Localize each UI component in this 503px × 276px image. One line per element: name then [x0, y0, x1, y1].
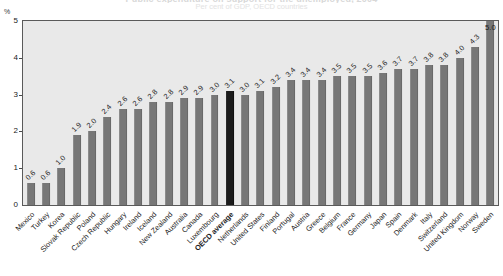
plot-area: 0.60.61.01.92.02.42.62.62.82.82.92.93.03… — [22, 20, 499, 206]
bar-slot[interactable]: 3.7 — [391, 21, 406, 205]
bar-slot[interactable]: 1.9 — [69, 21, 84, 205]
y-axis-tick-mark — [19, 168, 22, 169]
bar[interactable] — [134, 109, 142, 205]
bar[interactable] — [440, 65, 448, 205]
bar-slot[interactable]: 3.0 — [207, 21, 222, 205]
bar-value-label: 3.4 — [284, 65, 298, 79]
bar-value-label: 2.6 — [115, 95, 129, 109]
bar-slot[interactable]: 3.1 — [253, 21, 268, 205]
bar[interactable] — [257, 91, 265, 205]
bar[interactable] — [149, 102, 157, 205]
bar-value-label: 0.6 — [39, 168, 53, 182]
bar[interactable] — [119, 109, 127, 205]
bar-slot[interactable]: 3.6 — [375, 21, 390, 205]
bar[interactable] — [88, 131, 96, 205]
bar-value-label: 2.8 — [161, 87, 175, 101]
bar-value-label: 2.9 — [192, 84, 206, 98]
bar[interactable] — [57, 168, 65, 205]
bar-slot[interactable]: 2.9 — [192, 21, 207, 205]
bar-slot[interactable]: 4.0 — [452, 21, 467, 205]
bar-slot[interactable]: 2.6 — [130, 21, 145, 205]
y-axis-tick-label: 1 — [2, 163, 18, 172]
bar-slot[interactable]: 4.3 — [467, 21, 482, 205]
bar-value-label: 3.5 — [345, 62, 359, 76]
bar-slot[interactable]: 3.5 — [360, 21, 375, 205]
bar-slot[interactable]: 3.4 — [314, 21, 329, 205]
bar-value-label: 1.0 — [54, 154, 68, 168]
y-axis-tick-label: 2 — [2, 126, 18, 135]
bar[interactable] — [302, 80, 310, 205]
bar-slot[interactable]: 3.5 — [329, 21, 344, 205]
bar[interactable] — [348, 76, 356, 205]
bar-value-label: 3.0 — [207, 80, 221, 94]
bar[interactable] — [425, 65, 433, 205]
bar[interactable] — [180, 98, 188, 205]
bar[interactable] — [103, 117, 111, 205]
bar-slot[interactable]: 3.7 — [406, 21, 421, 205]
y-axis-tick-mark — [19, 131, 22, 132]
bar-slot[interactable]: 0.6 — [23, 21, 38, 205]
bar[interactable] — [333, 76, 341, 205]
bar[interactable] — [27, 183, 35, 205]
y-axis-tick-mark — [19, 95, 22, 96]
bar-value-label: 2.0 — [85, 117, 99, 131]
bar-slot[interactable]: 2.4 — [100, 21, 115, 205]
bar-slot[interactable]: 0.6 — [38, 21, 53, 205]
bar[interactable] — [486, 21, 494, 205]
bar[interactable] — [241, 95, 249, 205]
bar-value-label: 3.4 — [314, 65, 328, 79]
bar-series: 0.60.61.01.92.02.42.62.62.82.82.92.93.03… — [23, 21, 498, 205]
bar-value-label: 4.3 — [468, 32, 482, 46]
bar[interactable] — [456, 58, 464, 205]
bar-slot[interactable]: 3.8 — [421, 21, 436, 205]
bar[interactable] — [195, 98, 203, 205]
bar[interactable] — [226, 91, 234, 205]
chart-subtitle-clipped: Per cent of GDP, OECD countries — [0, 2, 503, 11]
plot-inner: 0.60.61.01.92.02.42.62.62.82.82.92.93.03… — [23, 21, 498, 205]
bar[interactable] — [364, 76, 372, 205]
bar-value-label: 3.5 — [360, 62, 374, 76]
bar[interactable] — [272, 87, 280, 205]
bar[interactable] — [394, 69, 402, 205]
bar-slot[interactable]: 2.8 — [146, 21, 161, 205]
bar-value-label: 5.0 — [485, 23, 496, 32]
bar[interactable] — [73, 135, 81, 205]
bar[interactable] — [471, 47, 479, 205]
bar-value-label: 3.1 — [253, 76, 267, 90]
bar-slot[interactable]: 3.8 — [437, 21, 452, 205]
bar[interactable] — [379, 73, 387, 205]
bar[interactable] — [318, 80, 326, 205]
bar-value-label: 2.8 — [146, 87, 160, 101]
bar-slot[interactable]: 2.9 — [176, 21, 191, 205]
bar-slot[interactable]: 2.8 — [161, 21, 176, 205]
bar-value-label: 1.9 — [69, 120, 83, 134]
y-axis-tick-label: 5 — [2, 16, 18, 25]
bar-slot[interactable]: 2.6 — [115, 21, 130, 205]
bar-slot[interactable]: 3.2 — [268, 21, 283, 205]
bar-value-label: 3.1 — [222, 76, 236, 90]
bar[interactable] — [42, 183, 50, 205]
bar-slot[interactable]: 3.1 — [222, 21, 237, 205]
chart-container: Public expenditure on support for the un… — [0, 0, 503, 276]
bar-slot[interactable]: 5.0 — [483, 21, 498, 205]
bar[interactable] — [211, 95, 219, 205]
bar[interactable] — [165, 102, 173, 205]
bar-slot[interactable]: 2.0 — [84, 21, 99, 205]
bar-value-label: 3.7 — [406, 54, 420, 68]
y-axis-unit-label: % — [4, 8, 10, 15]
bar-slot[interactable]: 1.0 — [54, 21, 69, 205]
bar[interactable] — [410, 69, 418, 205]
y-axis-tick-label: 0 — [2, 200, 18, 209]
bar[interactable] — [287, 80, 295, 205]
bar-value-label: 3.4 — [299, 65, 313, 79]
y-axis-tick-label: 3 — [2, 90, 18, 99]
y-axis-tick-mark — [19, 58, 22, 59]
bar-value-label: 4.0 — [452, 43, 466, 57]
bar-slot[interactable]: 3.4 — [283, 21, 298, 205]
bar-slot[interactable]: 3.0 — [238, 21, 253, 205]
bar-value-label: 0.6 — [23, 168, 37, 182]
bar-slot[interactable]: 3.5 — [345, 21, 360, 205]
bar-value-label: 3.8 — [422, 51, 436, 65]
bar-slot[interactable]: 3.4 — [299, 21, 314, 205]
bar-value-label: 2.9 — [177, 84, 191, 98]
